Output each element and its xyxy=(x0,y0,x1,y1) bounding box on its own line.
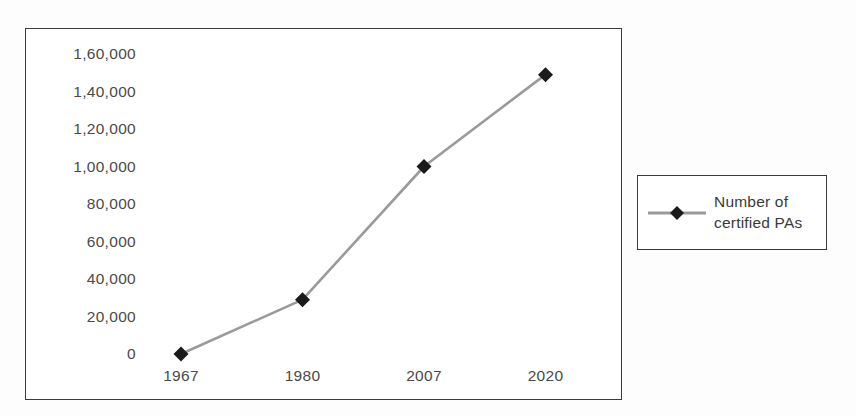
x-axis-tick-label: 2020 xyxy=(528,367,564,385)
line-chart-svg xyxy=(26,29,623,401)
legend-entry: Number of certified PAs xyxy=(646,192,826,234)
plot-area xyxy=(26,29,623,401)
diamond-marker-icon xyxy=(646,204,708,222)
data-series-line xyxy=(181,75,546,354)
data-point-marker xyxy=(174,347,189,362)
x-axis-tick-label: 1967 xyxy=(163,367,199,385)
chart-legend: Number of certified PAs xyxy=(637,175,827,250)
x-axis-tick-label: 2007 xyxy=(406,367,442,385)
x-axis: 1967198020072020 xyxy=(26,367,623,391)
legend-label: Number of certified PAs xyxy=(714,192,826,234)
chart-page: 1,60,0001,40,0001,20,0001,00,00080,00060… xyxy=(0,0,856,416)
x-axis-tick-label: 1980 xyxy=(285,367,321,385)
chart-frame: 1,60,0001,40,0001,20,0001,00,00080,00060… xyxy=(25,28,622,400)
